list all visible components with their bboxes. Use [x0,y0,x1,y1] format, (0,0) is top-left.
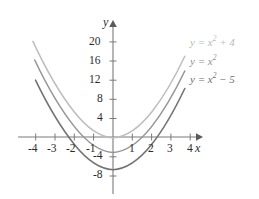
curve-x2-plus-4 [33,41,185,137]
y-tick-label-8: 8 [97,93,103,105]
y-tick-label-20: 20 [89,36,101,48]
curve-label-exp-1: 2 [213,53,217,62]
y-tick-label-neg8: -8 [93,169,103,181]
y-tick-label-4: 4 [97,112,103,124]
x-tick-label-4: 4 [187,143,193,155]
x-tick-label-neg3: -3 [47,143,57,155]
x-tick-label-1: 1 [129,143,135,155]
x-tick-label-2: 2 [148,143,154,155]
y-tick-label-16: 16 [89,55,101,67]
curve-label-x2: y = x2 [190,56,216,67]
parabolas-plot [0,0,259,199]
curve-label-x2-minus-5: y = x2 − 5 [190,74,235,85]
x-axis-label: x [195,142,200,154]
curve-label-tail-2: − 5 [216,73,234,85]
x-tick-label-neg4: -4 [28,143,38,155]
x-tick-label-3: 3 [167,143,173,155]
y-axis-label: y [103,16,108,28]
x-tick-label-neg1: -1 [86,143,96,155]
curve-x2-minus-5 [36,80,185,170]
x-axis-arrowhead [196,133,203,141]
curve-label-x2-plus-4: y = x2 + 4 [190,37,235,48]
curve-label-base-2: y = x [190,73,213,85]
chart-figure: y x 20 16 12 8 4 -4 -8 -4 -3 -2 -1 1 2 3… [0,0,259,199]
curve-label-base-1: y = x [190,55,213,67]
curve-x2 [35,60,185,152]
y-axis-arrowhead [109,20,117,27]
x-tick-label-neg2: -2 [66,143,76,155]
curve-label-tail-0: + 4 [216,36,234,48]
y-tick-label-12: 12 [89,74,101,86]
curve-label-base-0: y = x [190,36,213,48]
